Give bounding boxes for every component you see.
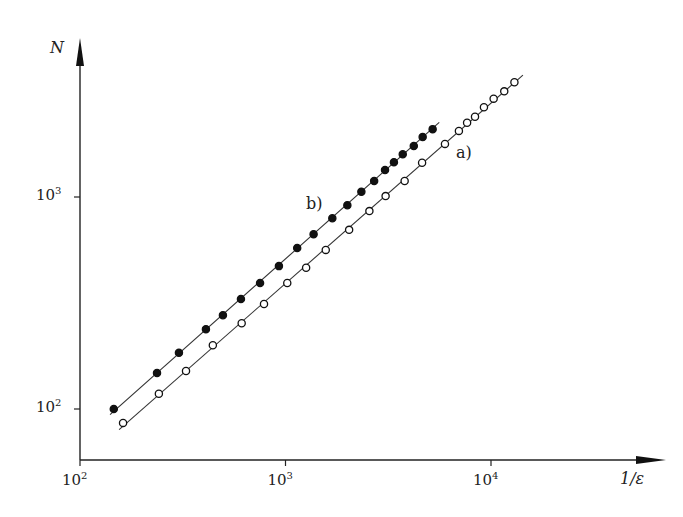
open-circle-marker [418,159,425,166]
open-circle-marker [119,419,126,426]
open-circle-marker [322,246,329,253]
open-circle-marker [401,177,408,184]
open-circle-marker [346,226,353,233]
filled-circle-marker [153,369,160,376]
data-points [110,79,518,427]
filled-circle-marker [329,215,336,222]
x-tick-label: 103 [268,470,293,489]
open-circle-marker [284,279,291,286]
filled-circle-marker [399,151,406,158]
open-circle-marker [501,88,508,95]
open-circle-marker [511,79,518,86]
y-tick-label: 102 [36,397,61,416]
open-circle-marker [463,119,470,126]
open-circle-marker [209,342,216,349]
filled-circle-marker [358,188,365,195]
curve-label-b: b) [306,194,322,213]
x-tick-label: 102 [62,470,87,489]
filled-circle-marker [237,295,244,302]
x-axis-label: 1/ε [620,469,644,488]
y-tick-label: 103 [36,185,61,204]
open-circle-marker [238,320,245,327]
open-circle-marker [382,192,389,199]
open-circle-marker [182,367,189,374]
fit-line [119,75,523,429]
open-circle-marker [303,264,310,271]
filled-circle-marker [371,177,378,184]
filled-circle-marker [310,231,317,238]
open-circle-marker [441,140,448,147]
filled-circle-marker [219,312,226,319]
filled-circle-marker [202,326,209,333]
y-axis-label: N [50,38,64,57]
open-circle-marker [455,127,462,134]
filled-circle-marker [410,142,417,149]
open-circle-marker [471,113,478,120]
y-axis-arrow-icon [76,38,84,66]
open-circle-marker [490,95,497,102]
filled-circle-marker [419,133,426,140]
x-axis-arrow-icon [636,456,666,464]
axes [74,38,666,466]
filled-circle-marker [344,202,351,209]
filled-circle-marker [275,263,282,270]
open-circle-marker [480,104,487,111]
filled-circle-marker [381,166,388,173]
filled-circle-marker [110,405,117,412]
open-circle-marker [366,208,373,215]
filled-circle-marker [390,159,397,166]
filled-circle-marker [429,126,436,133]
filled-circle-marker [294,245,301,252]
filled-circle-marker [256,279,263,286]
chart-plot-area [0,0,683,517]
curve-label-a: a) [456,143,472,162]
open-circle-marker [155,390,162,397]
open-circle-marker [260,300,267,307]
x-tick-label: 104 [473,470,498,489]
filled-circle-marker [175,349,182,356]
